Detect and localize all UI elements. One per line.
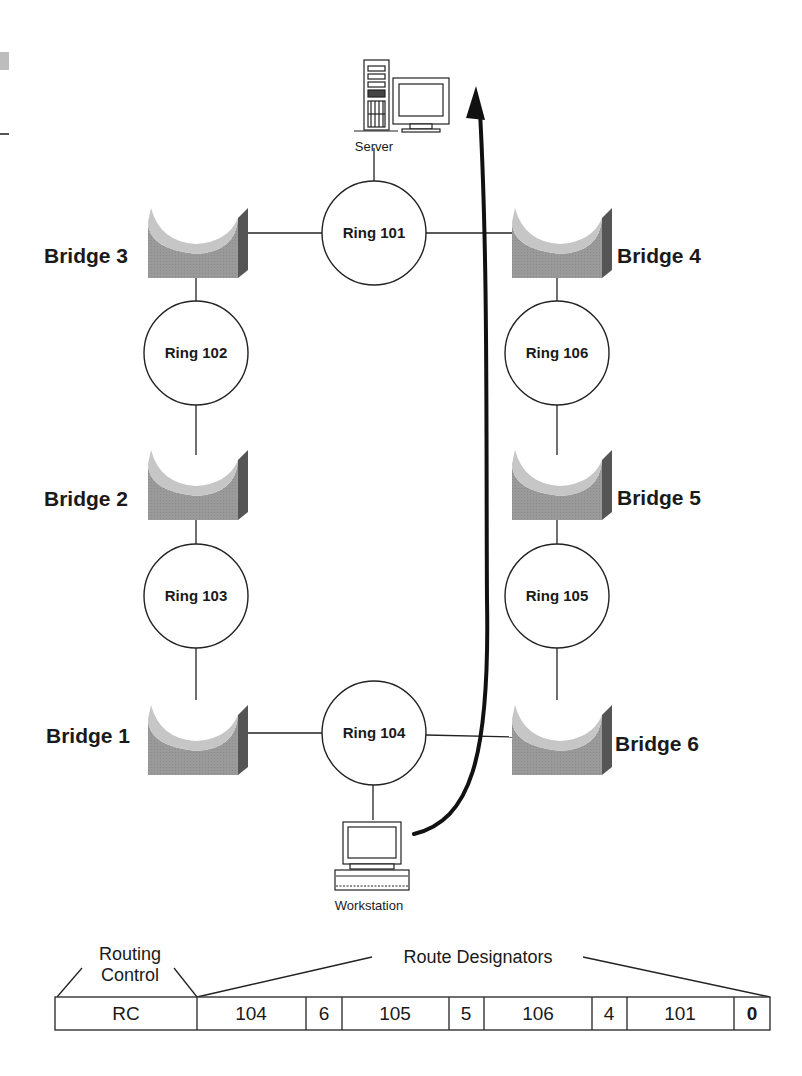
routing-control-label-line2: Control (101, 965, 159, 985)
bridge-3: Bridge 3 (44, 208, 248, 278)
frame-cell-ring-101: 101 (664, 1003, 696, 1024)
ring-103: Ring 103 (144, 544, 248, 648)
frame-cell-terminator: 0 (747, 1003, 758, 1024)
ring-104-label: Ring 104 (343, 724, 406, 741)
ring-101: Ring 101 (322, 181, 426, 285)
bridge-6-icon (512, 705, 612, 775)
ring-101-label: Ring 101 (343, 224, 406, 241)
frame-cell-ring-106: 106 (522, 1003, 554, 1024)
ring-103-label: Ring 103 (165, 587, 228, 604)
frame-cell-rc: RC (112, 1003, 139, 1024)
ring-104: Ring 104 (322, 681, 426, 785)
workstation-label: Workstation (335, 898, 403, 913)
workstation-icon (335, 822, 409, 890)
scan-artifact (0, 52, 9, 70)
bridge-1-label: Bridge 1 (46, 724, 130, 747)
frame-cell-bridge-4: 4 (604, 1003, 615, 1024)
ring-102: Ring 102 (144, 301, 248, 405)
bridge-4-icon (512, 208, 612, 278)
ring-106-label: Ring 106 (526, 344, 589, 361)
server: Server (354, 60, 449, 154)
frame-cell-bridge-5: 5 (461, 1003, 472, 1024)
ring-105-label: Ring 105 (526, 587, 589, 604)
bridge-2: Bridge 2 (44, 450, 248, 520)
ring-105: Ring 105 (505, 544, 609, 648)
token-ring-network-diagram: Ring 101 Ring 102 Ring 103 Ring 104 Ring… (0, 0, 802, 1076)
frame-labels: Routing Control Route Designators (57, 944, 770, 997)
bridge-4-label: Bridge 4 (617, 244, 701, 267)
route-designators-label: Route Designators (403, 947, 552, 967)
bridge-1: Bridge 1 (46, 705, 248, 775)
frame-cell-bridge-6: 6 (319, 1003, 330, 1024)
bridge-5-icon (512, 450, 612, 520)
ring-106: Ring 106 (505, 301, 609, 405)
frame-cell-ring-105: 105 (379, 1003, 411, 1024)
bridge-4: Bridge 4 (512, 208, 701, 278)
bridge-5-label: Bridge 5 (617, 486, 701, 509)
server-icon (354, 60, 449, 132)
ring-102-label: Ring 102 (165, 344, 228, 361)
bridge-6: Bridge 6 (512, 705, 699, 775)
bridge-3-label: Bridge 3 (44, 244, 128, 267)
bridge-6-label: Bridge 6 (615, 732, 699, 755)
bridge-5: Bridge 5 (512, 450, 701, 520)
arrow-head-icon (466, 86, 485, 120)
routing-frame: RC 104 6 105 5 106 4 101 0 (55, 997, 770, 1030)
bridge-3-icon (148, 208, 248, 278)
frame-cell-ring-104: 104 (235, 1003, 267, 1024)
bridge-2-label: Bridge 2 (44, 487, 128, 510)
bridge-1-icon (148, 705, 248, 775)
bridge-2-icon (148, 450, 248, 520)
routing-control-label-line1: Routing (99, 944, 161, 964)
server-label: Server (355, 139, 394, 154)
workstation: Workstation (335, 822, 409, 913)
